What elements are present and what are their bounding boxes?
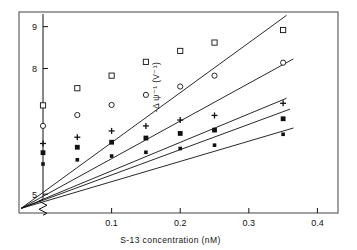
marker-series-5-small-filled [213, 143, 217, 147]
x-tick-label-0.3: 0.3 [243, 218, 256, 228]
marker-series-4-filled-square [212, 128, 217, 133]
marker-series-1-open-square [40, 103, 45, 108]
marker-series-4-filled-square [281, 116, 286, 121]
marker-series-4-filled-square [109, 140, 114, 145]
y-tick-label-8: 8 [32, 64, 37, 74]
marker-series-5-small-filled [76, 158, 80, 162]
x-tick-label-0.2: 0.2 [174, 218, 187, 228]
marker-series-1-open-square [178, 48, 183, 53]
marker-series-2-open-circle [40, 123, 45, 128]
x-tick-label-0.4: 0.4 [311, 218, 324, 228]
marker-series-5-small-filled [41, 162, 45, 166]
marker-series-5-small-filled [178, 147, 182, 151]
x-tick-label-0.1: 0.1 [105, 218, 118, 228]
marker-series-5-small-filled [281, 132, 285, 136]
marker-series-4-filled-square [144, 136, 149, 141]
marker-series-1-open-square [75, 86, 80, 91]
figure-container: 0.10.20.30.4S-13 concentration (nM)589-Δ… [0, 0, 357, 250]
fit-line-series-4-filled-square [21, 109, 290, 208]
marker-series-2-open-circle [212, 73, 217, 78]
marker-series-1-open-square [143, 59, 148, 64]
x-axis-title: S-13 concentration (nM) [120, 235, 220, 245]
marker-series-4-filled-square [178, 131, 183, 136]
marker-series-1-open-square [109, 73, 114, 78]
y-tick-label-9: 9 [32, 22, 37, 32]
marker-series-2-open-circle [281, 60, 286, 65]
scatter-plot: 0.10.20.30.4S-13 concentration (nM)589-Δ… [0, 0, 357, 250]
fit-line-series-1-open-square [21, 15, 286, 208]
marker-series-1-open-square [212, 40, 217, 45]
marker-series-4-filled-square [75, 145, 80, 150]
fit-line-series-5-small-filled [21, 128, 293, 208]
y-axis-title: -Δ ψ⁻¹ (V⁻¹) [151, 62, 161, 113]
marker-series-2-open-circle [75, 112, 80, 117]
marker-series-5-small-filled [144, 150, 148, 154]
marker-series-2-open-circle [178, 84, 183, 89]
fit-line-series-3-plus [21, 98, 286, 208]
marker-series-2-open-circle [109, 102, 114, 107]
marker-series-1-open-square [281, 27, 286, 32]
marker-series-4-filled-square [41, 150, 46, 155]
marker-series-5-small-filled [110, 154, 114, 158]
marker-series-2-open-circle [143, 92, 148, 97]
